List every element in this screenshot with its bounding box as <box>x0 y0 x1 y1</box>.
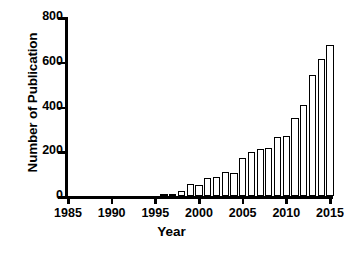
x-tick-label: 2015 <box>316 206 344 220</box>
x-tick-label: 2000 <box>185 206 213 220</box>
bar <box>300 105 307 196</box>
x-tick-mark <box>329 196 332 204</box>
bar <box>257 149 264 196</box>
x-tick-mark <box>198 196 201 204</box>
bar <box>169 194 176 196</box>
x-tick-label: 1990 <box>98 206 126 220</box>
bar <box>318 59 325 196</box>
bar <box>178 191 185 196</box>
bar <box>326 45 333 196</box>
x-tick-label: 2005 <box>229 206 257 220</box>
bar-series <box>68 17 330 196</box>
x-tick-label: 1995 <box>141 206 169 220</box>
x-tick-label: 2010 <box>272 206 300 220</box>
bar <box>309 75 316 196</box>
bar <box>160 194 167 196</box>
bar <box>204 178 211 196</box>
bar <box>222 172 229 196</box>
bar <box>274 137 281 196</box>
x-tick-mark <box>285 196 288 204</box>
x-axis-title: Year <box>0 224 343 239</box>
plot-area: 0200400600800 19851990199520002005201020… <box>65 17 330 196</box>
bar <box>283 136 290 196</box>
bar <box>213 177 220 196</box>
y-tick-label: 200 <box>42 143 63 157</box>
y-axis-title: Number of Publication <box>25 10 40 196</box>
y-tick-label: 0 <box>56 188 63 202</box>
bar <box>239 158 246 196</box>
bar <box>230 173 237 196</box>
x-tick-mark <box>154 196 157 204</box>
x-tick-mark <box>67 196 70 204</box>
x-tick-mark <box>242 196 245 204</box>
y-tick-label: 400 <box>42 99 63 113</box>
bar <box>248 152 255 196</box>
bar <box>265 148 272 196</box>
y-tick-label: 800 <box>42 9 63 23</box>
bar <box>195 185 202 196</box>
bar <box>291 118 298 196</box>
x-tick-label: 1985 <box>54 206 82 220</box>
x-tick-mark <box>111 196 114 204</box>
bar <box>187 184 194 196</box>
y-tick-label: 600 <box>42 54 63 68</box>
